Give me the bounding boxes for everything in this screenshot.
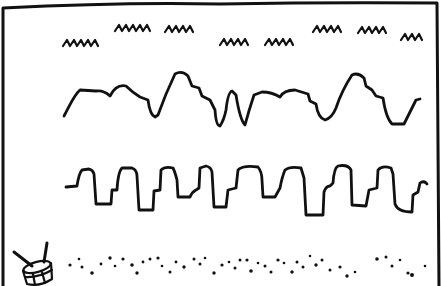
drum-icon <box>14 243 52 285</box>
illustration <box>0 0 441 286</box>
square-wave <box>66 166 427 216</box>
squiggle-row <box>63 25 422 46</box>
dot-row <box>68 255 426 278</box>
smooth-wave <box>64 72 420 126</box>
